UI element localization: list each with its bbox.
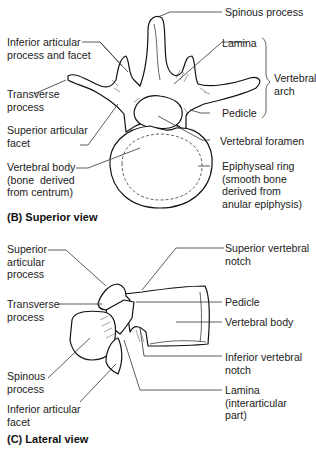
- label-superior-articular-process: Superior articular process: [7, 243, 47, 281]
- label-epiphyseal-ring: Epiphyseal ring (smooth bone derived fro…: [222, 160, 302, 210]
- label-inferior-vertebral-notch: Inferior vertebral notch: [225, 351, 302, 376]
- label-vertebral-body-superior: Vertebral body (bone derived from centru…: [7, 161, 75, 199]
- label-transverse-process: Transverse process: [7, 88, 60, 113]
- label-lamina-interarticular: Lamina (interarticular part): [225, 384, 287, 422]
- label-pedicle-superior: Pedicle: [222, 107, 257, 120]
- label-inferior-articular-facet: Inferior articular facet: [7, 403, 81, 428]
- label-inferior-articular-process-facet: Inferior articular process and facet: [7, 36, 91, 61]
- label-transverse-process-lateral: Transverse process: [7, 298, 60, 323]
- vertebra-illustration: [0, 0, 316, 450]
- label-superior-vertebral-notch: Superior vertebral notch: [225, 242, 309, 267]
- label-superior-articular-facet: Superior articular facet: [7, 124, 88, 149]
- label-vertebral-arch: Vertebral arch: [274, 72, 316, 97]
- label-spinous-process-lateral: Spinous process: [7, 370, 45, 395]
- lateral-view-drawing: [70, 284, 209, 374]
- caption-lateral-view: (C) Lateral view: [7, 433, 88, 445]
- caption-superior-view: (B) Superior view: [7, 211, 97, 223]
- label-vertebral-body-lateral: Vertebral body: [225, 316, 293, 329]
- label-spinous-process: Spinous process: [225, 6, 303, 19]
- label-pedicle-lateral: Pedicle: [225, 296, 260, 309]
- label-vertebral-foramen: Vertebral foramen: [220, 135, 304, 148]
- label-lamina: Lamina: [222, 37, 257, 50]
